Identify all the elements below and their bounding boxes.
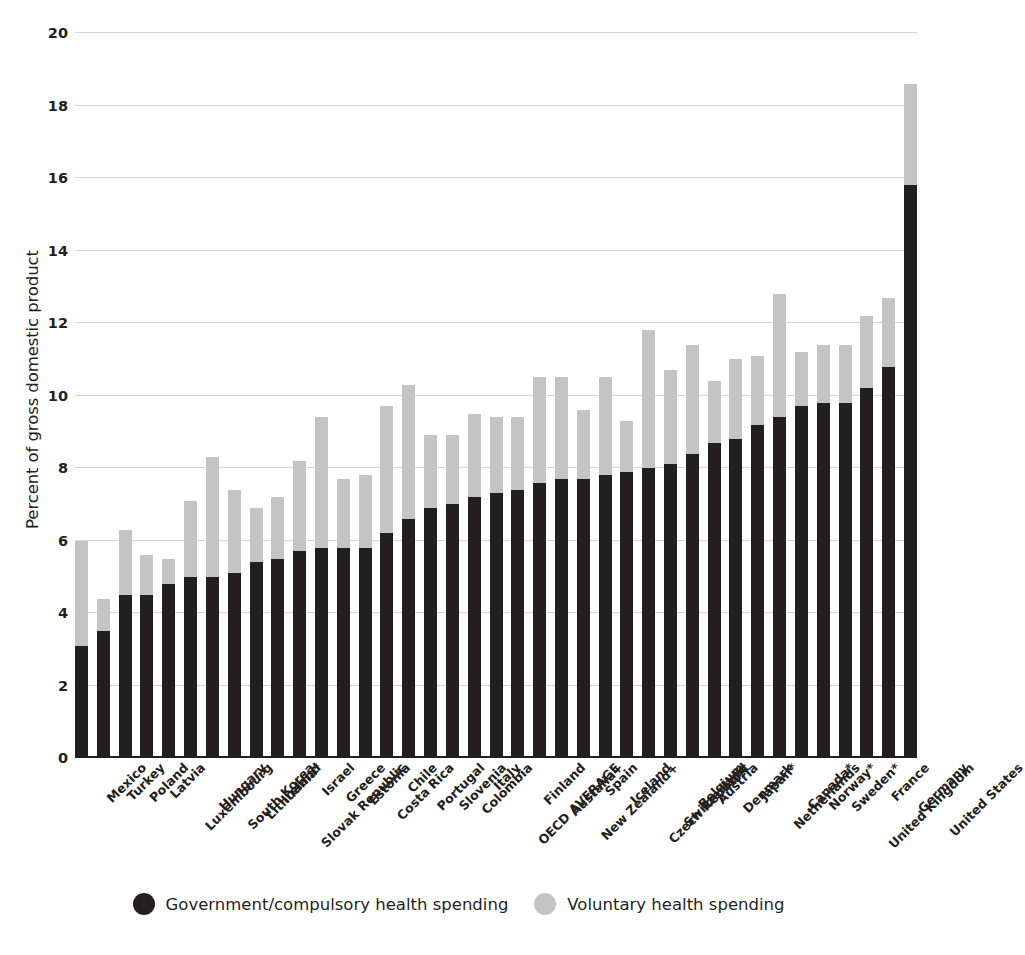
bar-segment-voluntary: [533, 377, 546, 482]
bar-segment-government: [228, 573, 241, 758]
bar-segment-government: [424, 508, 437, 758]
bar-segment-voluntary: [402, 385, 415, 519]
bar-segment-voluntary: [751, 356, 764, 425]
bar-segment-voluntary: [446, 435, 459, 504]
bar-column[interactable]: [97, 33, 110, 758]
bar-segment-voluntary: [817, 345, 830, 403]
bar-segment-government: [686, 454, 699, 759]
bar-segment-voluntary: [599, 377, 612, 475]
bar-segment-voluntary: [773, 294, 786, 417]
bar-column[interactable]: [599, 33, 612, 758]
bar-column[interactable]: [664, 33, 677, 758]
bar-column[interactable]: [533, 33, 546, 758]
bar-column[interactable]: [315, 33, 328, 758]
bar-column[interactable]: [271, 33, 284, 758]
bar-column[interactable]: [162, 33, 175, 758]
bar-segment-voluntary: [228, 490, 241, 573]
y-tick-label-2: 2: [8, 678, 68, 694]
bar-column[interactable]: [446, 33, 459, 758]
y-tick-label-14: 14: [8, 243, 68, 259]
bar-segment-government: [119, 595, 132, 758]
bar-column[interactable]: [686, 33, 699, 758]
bar-column[interactable]: [140, 33, 153, 758]
bar-segment-voluntary: [293, 461, 306, 552]
bar-segment-voluntary: [315, 417, 328, 548]
bar-segment-government: [140, 595, 153, 758]
bar-segment-government: [773, 417, 786, 758]
bar-segment-voluntary: [337, 479, 350, 548]
bar-column[interactable]: [490, 33, 503, 758]
bar-column[interactable]: [708, 33, 721, 758]
bar-segment-government: [97, 631, 110, 758]
bar-column[interactable]: [555, 33, 568, 758]
bar-column[interactable]: [184, 33, 197, 758]
bar-column[interactable]: [359, 33, 372, 758]
bar-column[interactable]: [293, 33, 306, 758]
bar-column[interactable]: [337, 33, 350, 758]
bar-segment-voluntary: [555, 377, 568, 479]
bar-segment-government: [468, 497, 481, 758]
bar-column[interactable]: [206, 33, 219, 758]
y-tick-label-4: 4: [8, 605, 68, 621]
bar-segment-government: [490, 493, 503, 758]
bar-series-container: [75, 33, 917, 758]
bar-segment-voluntary: [860, 316, 873, 389]
bar-segment-voluntary: [882, 298, 895, 367]
bar-column[interactable]: [577, 33, 590, 758]
bar-column[interactable]: [839, 33, 852, 758]
legend-item[interactable]: Voluntary health spending: [534, 893, 784, 915]
bar-segment-voluntary: [359, 475, 372, 548]
bar-segment-voluntary: [642, 330, 655, 468]
bar-column[interactable]: [773, 33, 786, 758]
bar-segment-voluntary: [140, 555, 153, 595]
legend-label: Voluntary health spending: [567, 895, 784, 914]
bar-column[interactable]: [119, 33, 132, 758]
bar-column[interactable]: [250, 33, 263, 758]
bar-column[interactable]: [424, 33, 437, 758]
y-tick-label-0: 0: [8, 750, 68, 766]
bar-column[interactable]: [817, 33, 830, 758]
bar-segment-government: [293, 551, 306, 758]
x-axis-category-labels: MexicoTurkeyPolandLatviaLuxembourgHungar…: [75, 760, 917, 875]
bar-column[interactable]: [468, 33, 481, 758]
plot-area: [75, 33, 917, 758]
bar-segment-voluntary: [511, 417, 524, 490]
bar-segment-government: [162, 584, 175, 758]
bar-column[interactable]: [729, 33, 742, 758]
bar-column[interactable]: [511, 33, 524, 758]
bar-segment-government: [75, 646, 88, 758]
bar-column[interactable]: [75, 33, 88, 758]
bar-segment-government: [380, 533, 393, 758]
bar-column[interactable]: [380, 33, 393, 758]
bar-segment-government: [882, 367, 895, 759]
y-tick-label-12: 12: [8, 315, 68, 331]
y-tick-label-20: 20: [8, 25, 68, 41]
legend-label: Government/compulsory health spending: [166, 895, 509, 914]
bar-column[interactable]: [642, 33, 655, 758]
bar-segment-voluntary: [119, 530, 132, 595]
bar-segment-government: [337, 548, 350, 758]
filled-circle-light-icon: [534, 893, 556, 915]
bar-segment-voluntary: [162, 559, 175, 584]
bar-segment-voluntary: [75, 541, 88, 646]
bar-column[interactable]: [402, 33, 415, 758]
chart-legend: Government/compulsory health spendingVol…: [0, 893, 917, 915]
bar-segment-government: [511, 490, 524, 758]
bar-column[interactable]: [620, 33, 633, 758]
bar-column[interactable]: [904, 33, 917, 758]
bar-segment-government: [795, 406, 808, 758]
bar-column[interactable]: [795, 33, 808, 758]
bar-segment-voluntary: [490, 417, 503, 493]
y-tick-label-18: 18: [8, 98, 68, 114]
bar-segment-government: [664, 464, 677, 758]
bar-column[interactable]: [882, 33, 895, 758]
bar-segment-voluntary: [729, 359, 742, 439]
bar-column[interactable]: [228, 33, 241, 758]
legend-item[interactable]: Government/compulsory health spending: [133, 893, 509, 915]
bar-column[interactable]: [860, 33, 873, 758]
bar-column[interactable]: [751, 33, 764, 758]
bar-segment-voluntary: [250, 508, 263, 562]
bar-segment-government: [315, 548, 328, 758]
bar-segment-government: [555, 479, 568, 758]
